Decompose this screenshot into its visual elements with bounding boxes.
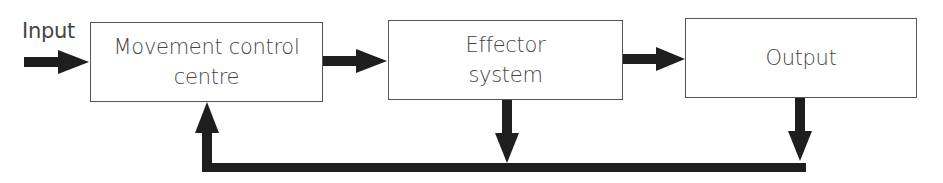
block-label-line1: Effector: [466, 30, 546, 60]
block-label-line1: Movement control: [114, 32, 300, 62]
arrow-effector-to-feedback: [495, 99, 519, 163]
block-effector-system: Effector system: [388, 20, 623, 100]
input-label: Input: [22, 19, 75, 43]
block-label-line2: centre: [174, 62, 239, 92]
arrow-output-to-feedback: [788, 97, 812, 161]
block-label-line1: Output: [765, 43, 836, 73]
input-arrow: [24, 50, 89, 74]
block-label-line2: system: [468, 60, 542, 90]
block-output: Output: [685, 18, 917, 98]
arrow-effector-to-output: [622, 47, 685, 71]
feedback-line: [202, 163, 806, 172]
arrow-feedback-to-control: [195, 102, 219, 172]
block-movement-control-centre: Movement control centre: [90, 22, 323, 102]
arrow-control-to-effector: [322, 49, 387, 73]
